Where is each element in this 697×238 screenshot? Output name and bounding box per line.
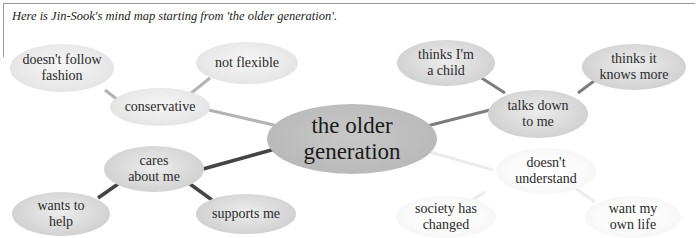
center-node[interactable]: the older generation — [267, 104, 437, 174]
node-supports-me[interactable]: supports me — [196, 194, 296, 234]
node-doesnt-follow-fashion[interactable]: doesn't follow fashion — [10, 44, 114, 92]
node-want-my-own-life[interactable]: want my own life — [585, 196, 681, 238]
node-thinks-it-knows-more[interactable]: thinks it knows more — [582, 44, 686, 90]
link-center-conservative — [200, 108, 278, 126]
node-doesnt-understand[interactable]: doesn't understand — [496, 148, 596, 194]
link-cares-supports — [190, 184, 212, 200]
node-wants-to-help[interactable]: wants to help — [12, 192, 110, 236]
node-cares-about-me[interactable]: cares about me — [104, 146, 204, 192]
node-not-flexible[interactable]: not flexible — [196, 42, 298, 84]
link-cares-help — [98, 184, 118, 198]
link-center-understand — [430, 152, 493, 170]
node-conservative[interactable]: conservative — [110, 88, 210, 126]
node-talks-down[interactable]: talks down to me — [488, 90, 588, 138]
link-conservative-flexible — [190, 78, 210, 94]
link-talks-child — [480, 77, 505, 93]
link-understand-ownlife — [575, 188, 595, 202]
link-center-cares — [203, 149, 275, 169]
node-thinks-im-a-child[interactable]: thinks I'm a child — [397, 40, 495, 86]
node-society-has-changed[interactable]: society has changed — [396, 196, 496, 238]
link-center-talks — [427, 110, 490, 126]
